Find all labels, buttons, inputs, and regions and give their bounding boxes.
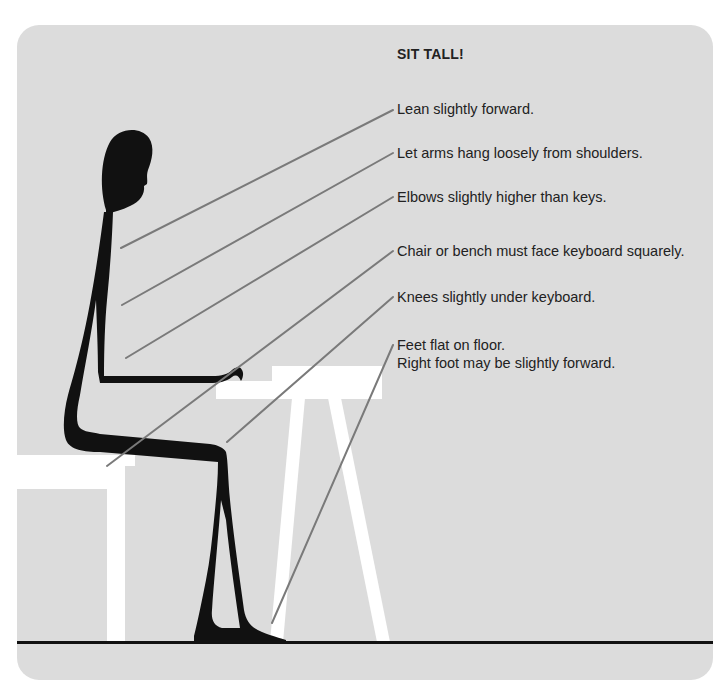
- keyboard-keys: [216, 381, 382, 399]
- instruction-knees: Knees slightly under keyboard.: [397, 288, 595, 306]
- leader-line-lean: [121, 110, 393, 248]
- instruction-feet: Feet flat on floor. Right foot may be sl…: [397, 336, 615, 372]
- floor-line: [17, 641, 713, 644]
- figure-head: [102, 130, 152, 214]
- instruction-bench: Chair or bench must face keyboard square…: [397, 242, 684, 260]
- diagram-title: SIT TALL!: [397, 46, 464, 62]
- bench: [17, 455, 135, 642]
- keyboard-top: [272, 366, 382, 382]
- keyboard-right-leg: [328, 398, 390, 642]
- instruction-feet-line1: Feet flat on floor.: [397, 336, 615, 354]
- leader-line-elbows: [126, 197, 393, 358]
- posture-illustration: [0, 0, 727, 684]
- bench-shape: [17, 455, 135, 642]
- keyboard-left-leg: [270, 398, 305, 642]
- instruction-lean: Lean slightly forward.: [397, 100, 534, 118]
- instruction-elbows: Elbows slightly higher than keys.: [397, 188, 607, 206]
- instruction-arms: Let arms hang loosely from shoulders.: [397, 144, 643, 162]
- figure-torso: [64, 212, 286, 643]
- instruction-feet-line2: Right foot may be slightly forward.: [397, 354, 615, 372]
